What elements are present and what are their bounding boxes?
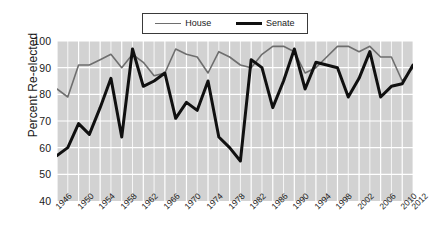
legend-label-house: House — [185, 19, 211, 28]
chart-canvas — [57, 41, 413, 201]
legend-item-house: House — [155, 19, 211, 28]
y-axis-title: Percent Re-elected — [26, 0, 40, 170]
legend-label-senate: Senate — [266, 19, 295, 28]
legend-line-senate-icon — [236, 22, 262, 25]
chart-legend: House Senate — [142, 13, 308, 34]
legend-item-senate: Senate — [236, 19, 295, 28]
y-tick-label: 40 — [21, 196, 51, 207]
plot-area — [57, 41, 413, 201]
legend-line-house-icon — [155, 23, 181, 24]
y-tick-label: 50 — [21, 169, 51, 180]
